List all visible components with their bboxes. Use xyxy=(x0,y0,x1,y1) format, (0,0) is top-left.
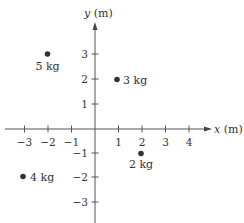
y-tick-label: −3 xyxy=(73,196,88,208)
x-axis-label: x (m) xyxy=(214,123,243,136)
x-tick-label: 3 xyxy=(162,136,169,148)
mass-point-icon xyxy=(114,77,120,83)
y-axis-arrow-icon xyxy=(93,22,98,30)
mass-label: 3 kg xyxy=(123,74,147,87)
mass-4kg: 4 kg xyxy=(20,171,54,184)
y-tick-label: 2 xyxy=(81,73,88,85)
mass-point-icon xyxy=(20,174,26,180)
x-tick-label: −2 xyxy=(40,136,55,148)
mass-label: 5 kg xyxy=(35,60,59,73)
mass-3kg: 3 kg xyxy=(114,74,147,87)
mass-2kg: 2 kg xyxy=(129,151,153,171)
y-tick-labels: 3 2 1 −1 −2 −3 xyxy=(73,48,88,208)
y-tick-label: 3 xyxy=(81,48,88,60)
x-tick-label: −3 xyxy=(17,136,32,148)
coordinate-diagram: −3 −2 −1 1 2 3 4 3 2 1 −1 −2 −3 y (m) x … xyxy=(0,0,244,223)
mass-5kg: 5 kg xyxy=(35,51,59,73)
mass-point-icon xyxy=(138,151,144,157)
x-axis-arrow-icon xyxy=(204,127,212,132)
y-tick-label: −2 xyxy=(73,171,88,183)
x-tick-label: 4 xyxy=(186,136,193,148)
x-tick-labels: −3 −2 −1 1 2 3 4 xyxy=(17,136,193,148)
mass-point-icon xyxy=(45,51,51,57)
y-tick-label: −1 xyxy=(73,147,88,159)
mass-label: 4 kg xyxy=(30,171,54,184)
x-tick-label: 2 xyxy=(139,136,146,148)
y-tick-label: 1 xyxy=(81,98,88,110)
mass-label: 2 kg xyxy=(129,158,153,171)
y-axis-label: y (m) xyxy=(83,7,113,20)
x-tick-label: 1 xyxy=(115,136,122,148)
